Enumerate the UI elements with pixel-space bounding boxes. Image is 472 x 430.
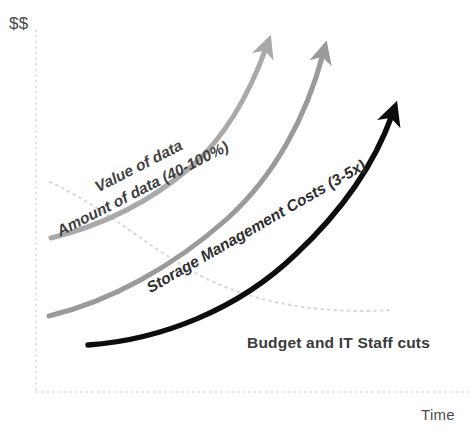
chart-container: $$ Time Value of data Amount of data (40… (0, 0, 472, 430)
series-label-budget-and-it-staff-cuts: Budget and IT Staff cuts (247, 334, 430, 352)
x-axis-label: Time (421, 406, 455, 423)
y-axis-label: $$ (9, 14, 29, 34)
